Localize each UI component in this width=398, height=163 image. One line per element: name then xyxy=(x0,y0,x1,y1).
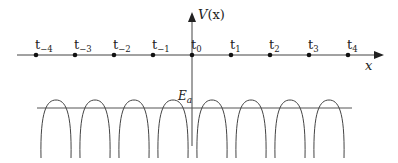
barrier-arch xyxy=(275,100,305,158)
site-label: t−2 xyxy=(113,37,131,54)
site-label: t1 xyxy=(230,37,241,54)
site-label: t−3 xyxy=(74,37,92,54)
barrier-arch xyxy=(314,100,344,158)
site-dot xyxy=(112,53,117,58)
barrier-arch xyxy=(80,100,110,158)
site-dot xyxy=(190,53,195,58)
site-dot xyxy=(268,53,273,58)
periodic-potential-diagram: V(x) x t−4t−3t−2t−1t0t1t2t3t4 Ea xyxy=(0,0,398,163)
site-label: t0 xyxy=(191,37,202,54)
barrier-arch xyxy=(119,100,149,158)
site-label: t4 xyxy=(347,37,358,54)
barrier-arch xyxy=(197,100,227,158)
y-axis-label: V(x) xyxy=(198,7,225,22)
site-dot xyxy=(229,53,234,58)
y-axis-arrow-icon xyxy=(188,12,196,22)
site-label: t3 xyxy=(308,37,319,54)
site-dot xyxy=(73,53,78,58)
x-axis-arrow-icon xyxy=(374,51,384,59)
site-label: t2 xyxy=(269,37,280,54)
barrier-arch xyxy=(41,100,71,158)
barrier-arch xyxy=(236,100,266,158)
site-dot xyxy=(151,53,156,58)
site-dot xyxy=(307,53,312,58)
site-dot xyxy=(34,53,39,58)
site-label: t−1 xyxy=(152,37,170,54)
lattice-sites: t−4t−3t−2t−1t0t1t2t3t4 xyxy=(34,37,358,57)
site-label: t−4 xyxy=(35,37,53,54)
site-dot xyxy=(346,53,351,58)
x-axis-label: x xyxy=(365,58,373,73)
barrier-arch xyxy=(158,100,188,158)
